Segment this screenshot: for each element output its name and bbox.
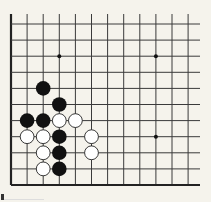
black-stone <box>36 113 51 128</box>
caption-rule <box>4 199 44 200</box>
go-board <box>0 0 211 202</box>
black-stone <box>36 81 51 96</box>
white-stone <box>36 162 50 176</box>
white-stone <box>52 114 66 128</box>
star-point <box>154 54 158 58</box>
white-stone <box>85 146 99 160</box>
black-stone <box>52 97 67 112</box>
white-stone <box>20 130 34 144</box>
black-stone <box>20 113 35 128</box>
black-stone <box>52 129 67 144</box>
white-stone <box>36 130 50 144</box>
black-stone <box>52 162 67 177</box>
black-stone <box>52 146 67 161</box>
star-point <box>57 54 61 58</box>
star-point <box>154 135 158 139</box>
white-stone <box>85 130 99 144</box>
white-stone <box>36 146 50 160</box>
board-grid <box>11 14 200 185</box>
white-stone <box>69 114 83 128</box>
